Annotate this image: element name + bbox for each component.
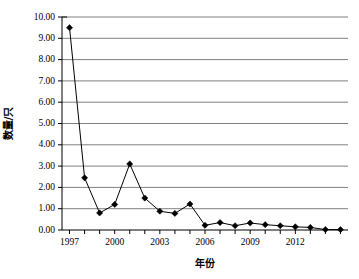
y-tick-label: 9.00	[38, 33, 55, 43]
y-tick-label: 1.00	[38, 203, 55, 213]
x-axis-title: 年份	[195, 257, 216, 269]
y-tick-label: 2.00	[38, 182, 55, 192]
line-chart: 0.001.002.003.004.005.006.007.008.009.00…	[0, 0, 359, 279]
y-tick-label: 5.00	[38, 118, 55, 128]
chart-canvas: 0.001.002.003.004.005.006.007.008.009.00…	[0, 0, 359, 279]
x-tick-label: 2006	[196, 237, 215, 247]
y-tick-label: 10.00	[34, 12, 56, 22]
y-axis-title: 数量/只	[2, 107, 14, 141]
x-tick-label: 1997	[60, 237, 79, 247]
x-tick-label: 2003	[150, 237, 169, 247]
x-tick-label: 2012	[286, 237, 305, 247]
y-tick-label: 7.00	[38, 76, 55, 86]
x-tick-label: 2009	[241, 237, 260, 247]
x-tick-label: 2000	[105, 237, 124, 247]
y-tick-label: 4.00	[38, 139, 55, 149]
y-tick-label: 6.00	[38, 97, 55, 107]
y-tick-label: 8.00	[38, 54, 55, 64]
y-tick-label: 0.00	[38, 225, 55, 235]
y-tick-label: 3.00	[38, 161, 55, 171]
